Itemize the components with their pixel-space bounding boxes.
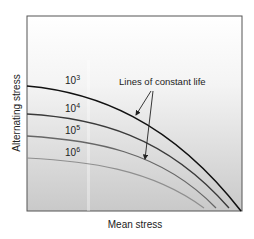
highlight-stripe	[87, 60, 90, 211]
plot-area	[27, 16, 242, 211]
x-axis-label: Mean stress	[108, 219, 162, 230]
y-axis-label: Alternating stress	[11, 74, 22, 151]
goodman-diagram: 103 104 105 106 Lines of constant life M…	[0, 0, 254, 239]
annotation-text: Lines of constant life	[119, 76, 206, 87]
